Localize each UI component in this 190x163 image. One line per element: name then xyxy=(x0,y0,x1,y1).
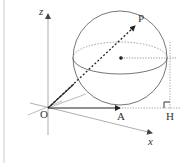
equator-back xyxy=(73,42,167,58)
sphere-diagram: z x H A P O xyxy=(0,0,190,163)
point-A-label: A xyxy=(117,110,125,122)
projection-line-light xyxy=(48,94,86,108)
origin-label: O xyxy=(40,108,48,120)
point-H-label: H xyxy=(166,110,174,122)
point-P-label: P xyxy=(138,12,144,24)
right-angle-marker-H xyxy=(164,102,170,108)
z-axis-label: z xyxy=(38,5,44,17)
x-axis-label: x xyxy=(147,135,153,147)
